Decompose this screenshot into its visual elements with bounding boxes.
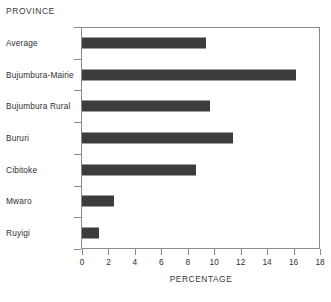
category-label: Cibitoke xyxy=(6,165,37,175)
category-label: Bujumbura-Mairie xyxy=(6,70,74,80)
bar-row: Bujumbura Rural xyxy=(0,90,331,122)
category-label: Bururi xyxy=(6,133,29,143)
bar xyxy=(82,37,206,48)
bar-row: Mwaro xyxy=(0,186,331,218)
x-axis-tick-label: 18 xyxy=(315,257,324,267)
bar-row: Cibitoke xyxy=(0,154,331,186)
bar-chart: PROVINCE AverageBujumbura-MairieBujumbur… xyxy=(0,0,331,302)
bar-rows: AverageBujumbura-MairieBujumbura RuralBu… xyxy=(0,27,331,249)
x-axis-tick-label: 14 xyxy=(262,257,271,267)
category-label: Average xyxy=(6,38,38,48)
x-axis-tick xyxy=(214,249,215,255)
x-axis-tick-label: 10 xyxy=(210,257,219,267)
bar xyxy=(82,101,210,112)
x-axis-tick xyxy=(267,249,268,255)
x-axis-tick-label: 2 xyxy=(106,257,111,267)
bar-row: Bujumbura-Mairie xyxy=(0,59,331,91)
x-axis-title: PERCENTAGE xyxy=(170,274,233,284)
x-axis-tick-label: 12 xyxy=(236,257,245,267)
category-label: Bujumbura Rural xyxy=(6,101,71,111)
x-axis-tick xyxy=(82,249,83,255)
x-axis-tick xyxy=(241,249,242,255)
y-axis-tick xyxy=(74,90,81,91)
x-axis-tick xyxy=(320,249,321,255)
y-axis-title: PROVINCE xyxy=(6,6,55,16)
y-axis-tick xyxy=(74,154,81,155)
bar-row: Bururi xyxy=(0,122,331,154)
y-axis-tick xyxy=(74,122,81,123)
bar xyxy=(82,164,196,175)
x-axis-tick-label: 6 xyxy=(159,257,164,267)
y-axis-tick xyxy=(74,186,81,187)
x-axis-tick-label: 8 xyxy=(185,257,190,267)
bar-row: Ruyigi xyxy=(0,217,331,249)
y-axis-tick xyxy=(74,217,81,218)
bar xyxy=(82,69,296,80)
category-label: Ruyigi xyxy=(6,228,30,238)
x-axis-tick xyxy=(108,249,109,255)
x-axis-tick xyxy=(294,249,295,255)
x-axis-tick-label: 0 xyxy=(80,257,85,267)
bar xyxy=(82,196,114,207)
bar xyxy=(82,132,233,143)
x-axis-tick-label: 16 xyxy=(289,257,298,267)
x-axis-tick-label: 4 xyxy=(133,257,138,267)
y-axis-tick xyxy=(74,27,81,28)
bar xyxy=(82,228,99,239)
x-axis-tick xyxy=(188,249,189,255)
x-axis-tick xyxy=(161,249,162,255)
x-axis: PERCENTAGE 024681012141618 xyxy=(0,249,331,302)
y-axis-tick xyxy=(74,59,81,60)
x-axis-tick xyxy=(135,249,136,255)
category-label: Mwaro xyxy=(6,196,32,206)
bar-row: Average xyxy=(0,27,331,59)
